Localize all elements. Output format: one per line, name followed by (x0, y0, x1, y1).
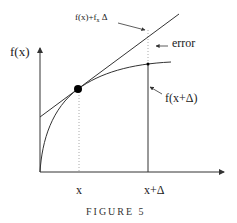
tangent-point (74, 85, 82, 93)
function-curve (40, 62, 171, 172)
fx-delta-label-arrow (150, 87, 162, 94)
x-tick-label-x-delta: x+Δ (144, 183, 165, 197)
tangent-line (40, 14, 179, 117)
tangent-approximation-diagram: f(x) f(x)+fx Δ error f(x+Δ) x x+Δ FIGURE… (0, 0, 237, 223)
y-axis-label: f(x) (10, 44, 30, 59)
fx-delta-label: f(x+Δ) (165, 91, 197, 105)
figure-caption: FIGURE 5 (86, 206, 146, 217)
error-label: error (172, 36, 195, 50)
tangent-label: f(x)+fx Δ (75, 12, 108, 23)
x-tick-label-x: x (76, 183, 82, 197)
tangent-label-arrow (118, 23, 145, 30)
curve-point-x-delta (147, 63, 150, 66)
